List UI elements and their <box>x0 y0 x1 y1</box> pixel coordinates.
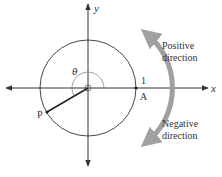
positive-direction-line2: direction <box>162 52 198 63</box>
positive-direction-line1: Positive <box>162 40 195 51</box>
x-axis-label: x <box>210 82 216 94</box>
unit-circle-diagram: y x θ 1 A P Positive direction Negative … <box>0 0 222 177</box>
point-p-label: P <box>37 109 43 120</box>
point-p-dot <box>45 110 48 113</box>
negative-direction-line1: Negative <box>162 118 199 129</box>
y-axis-label: y <box>93 2 99 14</box>
radius-label: 1 <box>141 75 146 86</box>
negative-direction-line2: direction <box>162 130 198 141</box>
theta-label: θ <box>72 65 78 77</box>
radius-op <box>47 88 88 112</box>
point-a-dot <box>134 86 137 89</box>
point-a-label: A <box>140 91 148 102</box>
